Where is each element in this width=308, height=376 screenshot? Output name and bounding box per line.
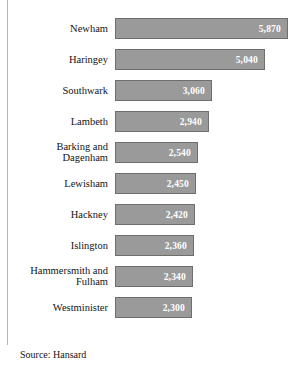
bar-value-label: 5,040 (236, 55, 264, 65)
bar-row: Islington2,360 (0, 235, 308, 266)
bar-row: Westminister2,300 (0, 297, 308, 328)
bar-value-label: 2,450 (167, 179, 195, 189)
bar-category-label: Hackney (0, 204, 108, 225)
bar-row: Newham5,870 (0, 18, 308, 49)
bar[interactable]: 2,540 (115, 142, 198, 163)
bar[interactable]: 2,360 (115, 235, 194, 256)
bar-track: 3,060 (115, 80, 212, 101)
bar-track: 2,340 (115, 266, 193, 287)
bar-value-label: 2,340 (164, 272, 192, 282)
bar-category-label: Newham (0, 18, 108, 39)
source-note: Source: Hansard (20, 349, 86, 360)
bar-row: Hammersmith and Fulham2,340 (0, 266, 308, 297)
bar-track: 2,450 (115, 173, 196, 194)
bar-track: 2,360 (115, 235, 194, 256)
bar-row: Haringey5,040 (0, 49, 308, 80)
bar-row: Lewisham2,450 (0, 173, 308, 204)
bar-value-label: 2,300 (163, 303, 191, 313)
bar-value-label: 2,540 (169, 148, 197, 158)
bar-track: 2,420 (115, 204, 195, 225)
bar[interactable]: 2,300 (115, 297, 192, 318)
bar-category-label: Westminister (0, 297, 108, 318)
bar-track: 5,870 (115, 18, 288, 39)
bar-track: 5,040 (115, 49, 265, 70)
bar-track: 2,300 (115, 297, 192, 318)
bar-category-label: Lewisham (0, 173, 108, 194)
bar-value-label: 2,360 (165, 241, 193, 251)
bar-category-label: Lambeth (0, 111, 108, 132)
bar[interactable]: 5,870 (115, 18, 288, 39)
bar-chart-plot-area: Newham5,870Haringey5,040Southwark3,060La… (0, 18, 308, 328)
bar-row: Southwark3,060 (0, 80, 308, 111)
bar-value-label: 5,870 (259, 24, 287, 34)
bar-category-label: Barking and Dagenham (0, 142, 108, 163)
bar-value-label: 3,060 (183, 86, 211, 96)
bar[interactable]: 2,940 (115, 111, 209, 132)
bar-category-label: Islington (0, 235, 108, 256)
bar[interactable]: 3,060 (115, 80, 212, 101)
bar-row: Barking and Dagenham2,540 (0, 142, 308, 173)
bar-row: Lambeth2,940 (0, 111, 308, 142)
bar-value-label: 2,940 (180, 117, 208, 127)
bar-value-label: 2,420 (166, 210, 194, 220)
bar[interactable]: 2,420 (115, 204, 195, 225)
bar[interactable]: 5,040 (115, 49, 265, 70)
bar-category-label: Haringey (0, 49, 108, 70)
bar[interactable]: 2,450 (115, 173, 196, 194)
bar-category-label: Hammersmith and Fulham (0, 266, 108, 287)
bar-track: 2,940 (115, 111, 209, 132)
bar-track: 2,540 (115, 142, 198, 163)
bar-chart-figure: Newham5,870Haringey5,040Southwark3,060La… (0, 0, 308, 376)
bar-row: Hackney2,420 (0, 204, 308, 235)
bar[interactable]: 2,340 (115, 266, 193, 287)
bar-category-label: Southwark (0, 80, 108, 101)
